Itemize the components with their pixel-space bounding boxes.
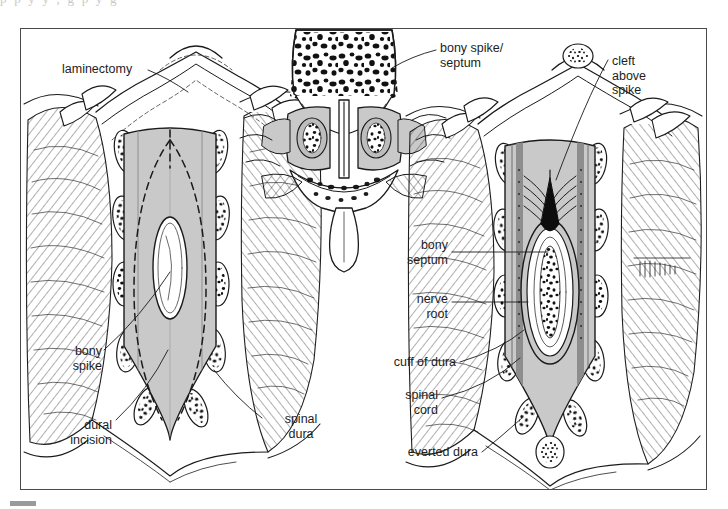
label-everted-dura: everted dura [388,445,478,460]
label-nerve-root: nerve root [378,292,448,321]
label-cleft-above-spike: cleft above spike [612,54,646,98]
bony-septum-right [540,246,560,338]
label-dural-incision: dural incision [28,418,112,447]
label-spinal-dura: spinal dura [270,412,332,441]
illustration-stage: p p y y , g p y g [0,0,728,509]
label-bony-septum: bony septum [378,238,448,267]
bony-septum-center [339,100,349,178]
right-panel-art [406,44,702,490]
label-laminectomy: laminectomy [62,62,132,77]
label-spinal-cord: spinal cord [378,388,438,417]
label-bony-spike: bony spike [40,344,102,373]
hemicord-right [361,118,391,158]
hemicord-left [297,118,327,158]
page-corner-marker [10,501,36,506]
bony-spike-left [153,217,187,319]
label-bony-spike-septum: bony spike/ septum [440,41,503,70]
label-cuff-of-dura: cuff of dura [368,355,456,370]
